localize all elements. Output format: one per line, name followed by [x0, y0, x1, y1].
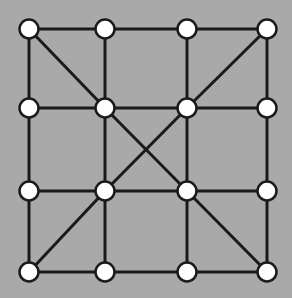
node-r1c1[interactable]: [96, 99, 115, 118]
node-r2c1[interactable]: [96, 182, 115, 201]
node-r0c3[interactable]: [258, 20, 277, 39]
node-r2c0[interactable]: [20, 182, 39, 201]
node-r1c2[interactable]: [178, 99, 197, 118]
graph-board: [0, 0, 292, 298]
edge-r2c1-r3c0: [29, 191, 105, 272]
edges-layer: [29, 29, 267, 272]
node-r3c2[interactable]: [178, 263, 197, 282]
edge-r2c2-r3c3: [187, 191, 267, 272]
node-r2c3[interactable]: [258, 182, 277, 201]
node-r3c3[interactable]: [258, 263, 277, 282]
node-r0c0[interactable]: [20, 20, 39, 39]
edge-r0c3-r1c2: [187, 29, 267, 108]
edge-r0c0-r1c1: [29, 29, 105, 108]
node-r1c3[interactable]: [258, 99, 277, 118]
node-r1c0[interactable]: [20, 99, 39, 118]
node-r0c1[interactable]: [96, 20, 115, 39]
node-r2c2[interactable]: [178, 182, 197, 201]
node-r3c1[interactable]: [96, 263, 115, 282]
node-r3c0[interactable]: [20, 263, 39, 282]
node-r0c2[interactable]: [178, 20, 197, 39]
